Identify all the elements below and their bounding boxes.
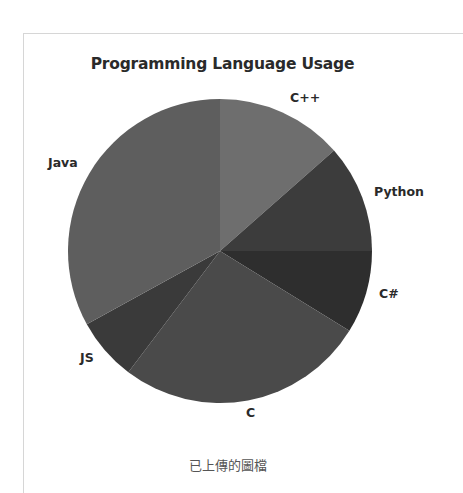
label-c: C [246, 405, 255, 420]
caption: 已上傳的圖檔 [0, 455, 456, 474]
label-js: JS [80, 350, 94, 365]
label-cpp: C++ [290, 90, 320, 105]
label-csharp: C# [379, 286, 399, 301]
label-python: Python [374, 184, 424, 199]
label-java: Java [48, 155, 78, 170]
